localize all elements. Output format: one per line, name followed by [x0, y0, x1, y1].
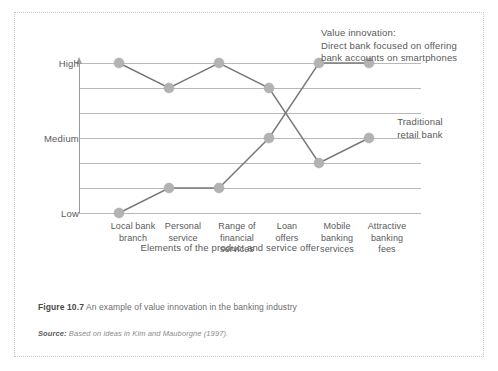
data-point — [114, 208, 124, 218]
series-line-value-innovation — [119, 63, 369, 213]
figure-caption-text: An example of value innovation in the ba… — [86, 302, 297, 312]
data-point — [164, 83, 174, 93]
series-markers-value-innovation — [114, 58, 374, 218]
annotation-traditional-line1: Traditional — [359, 116, 481, 129]
series-markers-traditional — [114, 58, 374, 168]
data-point — [214, 58, 224, 68]
annotation-traditional-line2: retail bank — [359, 129, 481, 142]
annotation-value-innovation-line2: Direct bank focused on offering — [321, 40, 491, 53]
figure-card: High Medium Low Local bankbranch Persona… — [14, 12, 484, 357]
annotation-value-innovation-line1: Value innovation: — [321, 27, 491, 40]
figure-source: Source: Based on ideas in Kim and Maubor… — [38, 329, 458, 338]
figure-source-text: Based on ideas in Kim and Mauborgne (199… — [69, 329, 228, 338]
data-point — [314, 158, 324, 168]
annotation-value-innovation: Value innovation: Direct bank focused on… — [321, 27, 491, 65]
x-axis-title: Elements of the product and service offe… — [15, 242, 445, 253]
annotation-value-innovation-line3: bank accounts on smartphones — [321, 52, 491, 65]
data-point — [164, 183, 174, 193]
figure-caption: Figure 10.7 An example of value innovati… — [38, 302, 458, 312]
data-point — [214, 183, 224, 193]
figure-caption-label: Figure 10.7 — [38, 302, 84, 312]
series-line-traditional — [119, 63, 369, 163]
annotation-traditional-retail-bank: Traditional retail bank — [359, 116, 481, 141]
data-point — [264, 83, 274, 93]
data-point — [264, 133, 274, 143]
chart-plot-area: High Medium Low Local bankbranch Persona… — [15, 13, 485, 271]
data-point — [114, 58, 124, 68]
figure-source-label: Source: — [38, 329, 67, 338]
